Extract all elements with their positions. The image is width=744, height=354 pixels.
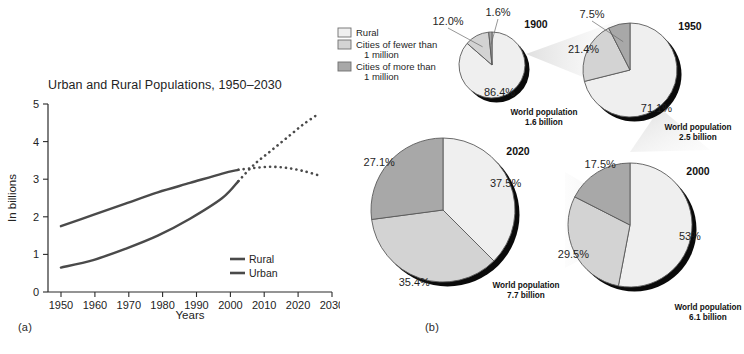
y-tick-0: 0 [33,286,39,298]
pie-caption-line1-1900: World population [510,108,577,117]
pie-caption-line2-2000: 6.1 billion [689,313,727,322]
y-tick-3: 3 [33,173,39,185]
pie-pct-1950-0: 71.1% [641,102,672,114]
pie-pct-2020-1: 35.4% [399,276,430,288]
pie-pct-2020-2: 27.1% [364,156,395,168]
pie-charts-svg: 86.4%12.0%1.6%1900World population1.6 bi… [330,0,744,354]
y-tick-5: 5 [33,98,39,110]
pie-chart-2020: 37.5%35.4%27.1%2020World population7.7 b… [364,138,560,300]
legend-swatch-cities-more [338,62,351,71]
pie-year-label-2020: 2020 [506,145,530,157]
pie-caption-line2-2020: 7.7 billion [507,291,545,300]
x-axis-title: Years [176,309,205,321]
pie-caption-line1-2000: World population [674,303,741,312]
line-chart-legend: Rural Urban [228,252,308,282]
pie-caption-line2-1900: 1.6 billion [525,118,563,127]
legend-swatch-cities-fewer [338,40,351,49]
pie-chart-2000: 53%29.5%17.5%2000World population6.1 bil… [558,158,742,322]
panel-b-tag: (b) [425,321,439,333]
pie-pct-1900-1: 12.0% [432,15,463,27]
legend-swatch-rural [338,28,351,37]
pie-year-label-1950: 1950 [678,20,702,32]
legend-label-cities-fewer-line2: 1 million [364,49,399,60]
x-axis-title-svg: Years [0,305,340,325]
pie-caption-line1-1950: World population [664,123,731,132]
pie-pct-1900-2: 1.6% [485,6,510,18]
legend-label-rural-line1: Rural [356,27,379,38]
pie-pct-2020-0: 37.5% [490,177,521,189]
pie-caption-line1-2020: World population [492,281,559,290]
pie-year-label-1900: 1900 [524,18,548,30]
pie-pct-2000-2: 17.5% [585,158,616,170]
pie-pct-2000-0: 53% [679,230,701,242]
legend-label-rural: Rural [249,253,274,265]
line-chart-svg: 0 1 2 3 4 5 1950 1960 1970 1980 1990 200… [0,92,340,317]
line-rural-solid [61,170,239,226]
pie-pct-1950-1: 21.4% [568,43,599,55]
pie-chart-1900: 86.4%12.0%1.6%1900World population1.6 bi… [432,6,577,127]
pie-chart-1950: 71.1%21.4%7.5%1950World population2.5 bi… [568,8,732,142]
panel-a-line-chart: Urban and Rural Populations, 1950–2030 0… [0,0,372,354]
pie-caption-line2-1950: 2.5 billion [679,133,717,142]
pie-slice-2020-2[interactable] [371,138,443,219]
pie-legend: Rural Cities of fewer than 1 million Cit… [338,27,437,82]
pie-year-label-2000: 2000 [686,165,710,177]
line-series-group [61,113,319,267]
panel-b-pie-charts: 86.4%12.0%1.6%1900World population1.6 bi… [330,0,744,354]
legend-label-urban: Urban [249,267,278,279]
pie-pct-2000-1: 29.5% [558,248,589,260]
pie-pct-1950-2: 7.5% [579,8,604,20]
y-tick-4: 4 [33,136,39,148]
y-axis-ticks: 0 1 2 3 4 5 [33,98,48,298]
y-tick-2: 2 [33,211,39,223]
pie-pct-1900-0: 86.4% [484,86,515,98]
y-tick-1: 1 [33,248,39,260]
line-chart-title: Urban and Rural Populations, 1950–2030 [0,78,330,92]
legend-label-cities-more-line2: 1 million [364,71,399,82]
line-rural-dotted [238,167,319,176]
y-axis-title: In billions [6,174,18,222]
